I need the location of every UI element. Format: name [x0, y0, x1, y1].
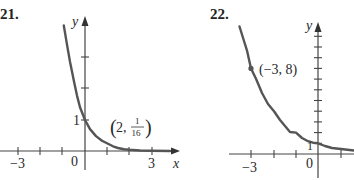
x-axis-arrow-icon — [171, 148, 180, 155]
y-axis-label: y — [304, 18, 313, 33]
tick-label-y1: 1 — [73, 113, 80, 128]
exponential-curve — [240, 27, 354, 151]
tick-label-neg3: −3 — [10, 156, 25, 171]
y-axis-arrow-icon — [315, 22, 322, 32]
point-label-2-1-16: ( 2, 1 16 ) — [110, 116, 152, 139]
y-axis-arrow-icon — [82, 16, 89, 26]
tick-label-3: 3 — [148, 156, 155, 171]
graph-21: 21. y x −3 0 3 1 ( 2, 1 16 ) — [0, 0, 180, 180]
tick-label-neg3: −3 — [242, 160, 257, 175]
tick-label-0: 0 — [71, 154, 78, 169]
fraction-numerator: 1 — [135, 116, 140, 126]
point-marker — [248, 66, 253, 71]
y-axis-label: y — [70, 14, 79, 29]
graph-22: 22. y (−3, 8) −3 0 1 — [180, 0, 354, 180]
graph-21-svg: 21. y x −3 0 3 1 ( 2, 1 16 ) — [0, 0, 180, 180]
tick-label-y1: 1 — [307, 139, 313, 153]
problem-number: 21. — [0, 6, 19, 22]
problem-number: 22. — [210, 6, 229, 22]
fraction-denominator: 16 — [132, 128, 142, 138]
point-label: (−3, 8) — [259, 62, 298, 78]
x-axis-label: x — [172, 156, 180, 171]
tick-label-0: 0 — [306, 156, 313, 171]
graph-22-svg: 22. y (−3, 8) −3 0 1 — [180, 0, 354, 180]
point-x-value: 2, — [116, 120, 127, 135]
right-paren: ) — [145, 116, 152, 139]
